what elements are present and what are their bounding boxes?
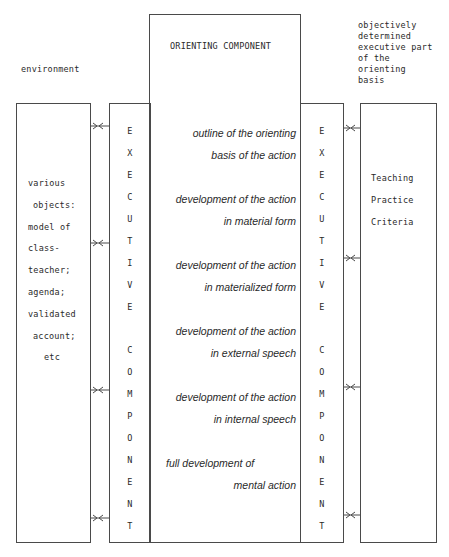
- stage-mental-line1: full development of: [152, 452, 296, 474]
- exec-letter: E: [301, 126, 343, 136]
- exec-letter: E: [110, 126, 150, 136]
- environment-line: teacher;: [28, 260, 76, 282]
- exec-letter: U: [301, 214, 343, 224]
- exec-letter: T: [110, 236, 150, 246]
- exec-letter: P: [110, 411, 150, 421]
- connector-arrow-icon: [343, 254, 361, 262]
- stage-internal-line2: in internal speech: [152, 408, 296, 430]
- exec-letter: O: [110, 433, 150, 443]
- stage-mental-line2: mental action: [152, 474, 296, 496]
- objective-part-line: executive part: [358, 42, 432, 53]
- connector-arrow-icon: [343, 124, 361, 132]
- criteria-line: Practice: [371, 190, 414, 212]
- connector-arrow-icon: [343, 383, 361, 391]
- exec-letter: E: [301, 477, 343, 487]
- objective-part-line: basis: [358, 75, 432, 86]
- exec-letter: E: [301, 170, 343, 180]
- exec-letter: V: [301, 280, 343, 290]
- stage-outline-line2: basis of the action: [152, 144, 296, 166]
- stage-materialized-line2: in materialized form: [152, 276, 296, 298]
- exec-letter: M: [110, 389, 150, 399]
- criteria-line: Criteria: [371, 212, 414, 234]
- objective-part-line: of the: [358, 53, 432, 64]
- stage-internal-line1: development of the action: [152, 386, 296, 408]
- exec-letter: T: [301, 521, 343, 531]
- environment-box: various objects: model of class- teacher…: [16, 103, 91, 543]
- exec-letter: E: [110, 170, 150, 180]
- exec-letter: U: [110, 214, 150, 224]
- exec-letter: N: [301, 499, 343, 509]
- criteria-box: Teaching Practice Criteria: [360, 103, 437, 543]
- exec-letter: I: [110, 258, 150, 268]
- exec-letter: X: [110, 148, 150, 158]
- connector-arrow-icon: [343, 511, 361, 519]
- exec-letter: N: [301, 455, 343, 465]
- environment-line: objects:: [28, 195, 76, 217]
- executive-column-left: E X E C U T I V E C O M P O N E N T: [109, 103, 151, 543]
- stage-outline-line1: outline of the orienting: [152, 122, 296, 144]
- exec-letter: O: [301, 433, 343, 443]
- exec-letter: I: [301, 258, 343, 268]
- connector-arrow-icon: [90, 514, 110, 522]
- objective-part-line: objectively: [358, 20, 432, 31]
- exec-letter: C: [110, 192, 150, 202]
- exec-letter: E: [110, 302, 150, 312]
- stage-material-line1: development of the action: [152, 188, 296, 210]
- environment-line: etc: [28, 347, 76, 369]
- environment-label: environment: [21, 64, 80, 74]
- objective-part-label: objectively determined executive part of…: [358, 20, 432, 86]
- exec-letter: C: [301, 192, 343, 202]
- stage-material-line2: in material form: [152, 210, 296, 232]
- exec-letter: T: [110, 521, 150, 531]
- connector-arrow-icon: [90, 239, 110, 247]
- exec-letter: E: [301, 302, 343, 312]
- environment-line: model of: [28, 217, 76, 239]
- exec-letter: X: [301, 148, 343, 158]
- exec-letter: C: [110, 345, 150, 355]
- environment-line: validated: [28, 304, 76, 326]
- exec-letter: O: [301, 367, 343, 377]
- environment-line: account;: [28, 326, 76, 348]
- environment-line: class-: [28, 238, 76, 260]
- exec-letter: E: [110, 477, 150, 487]
- exec-letter: C: [301, 345, 343, 355]
- exec-letter: V: [110, 280, 150, 290]
- environment-line: agenda;: [28, 282, 76, 304]
- environment-box-text: various objects: model of class- teacher…: [28, 173, 76, 369]
- exec-letter: N: [110, 455, 150, 465]
- exec-letter: O: [110, 367, 150, 377]
- exec-letter: T: [301, 236, 343, 246]
- connector-arrow-icon: [90, 386, 110, 394]
- stage-materialized-line1: development of the action: [152, 254, 296, 276]
- orienting-component-title: ORIENTING COMPONENT: [170, 41, 271, 51]
- exec-letter: P: [301, 411, 343, 421]
- connector-arrow-icon: [90, 122, 110, 130]
- executive-column-right: E X E C U T I V E C O M P O N E N T: [300, 103, 344, 543]
- stage-external-line1: development of the action: [152, 320, 296, 342]
- objective-part-line: determined: [358, 31, 432, 42]
- exec-letter: M: [301, 389, 343, 399]
- orienting-stages: outline of the orienting basis of the ac…: [152, 122, 296, 496]
- stage-external-line2: in external speech: [152, 342, 296, 364]
- exec-letter: N: [110, 499, 150, 509]
- criteria-box-text: Teaching Practice Criteria: [371, 168, 414, 233]
- objective-part-line: orienting: [358, 64, 432, 75]
- criteria-line: Teaching: [371, 168, 414, 190]
- environment-line: various: [28, 173, 76, 195]
